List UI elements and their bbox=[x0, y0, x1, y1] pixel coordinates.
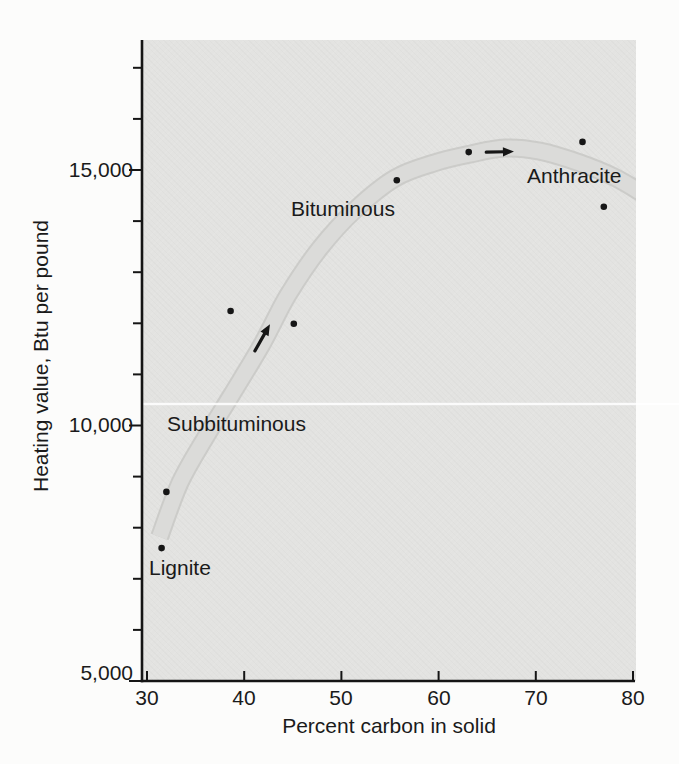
data-point bbox=[227, 308, 234, 315]
annotation-lignite: Lignite bbox=[149, 556, 211, 580]
data-point bbox=[579, 139, 586, 146]
data-point bbox=[163, 489, 170, 496]
data-point bbox=[158, 545, 165, 552]
x-axis-title: Percent carbon in solid bbox=[142, 714, 636, 738]
data-point bbox=[394, 177, 401, 184]
trend-band bbox=[160, 148, 642, 537]
annotation-subbituminous: Subbituminous bbox=[167, 412, 306, 436]
x-tick-label-80: 80 bbox=[598, 686, 668, 710]
x-tick-label-60: 60 bbox=[404, 686, 474, 710]
chart-canvas bbox=[0, 0, 679, 764]
data-point bbox=[601, 204, 608, 211]
annotation-anthracite: Anthracite bbox=[527, 164, 622, 188]
axes-group bbox=[141, 40, 635, 682]
y-axis-title: Heating value, Btu per pound bbox=[29, 220, 53, 492]
x-tick-label-70: 70 bbox=[501, 686, 571, 710]
x-tick-label-50: 50 bbox=[306, 686, 376, 710]
annotation-bituminous: Bituminous bbox=[291, 197, 395, 221]
x-tick-label-40: 40 bbox=[209, 686, 279, 710]
y-tick-label-15000: 15,000 bbox=[38, 158, 133, 182]
coal-heating-value-figure: 15,000 10,000 5,000 30 40 50 60 70 80 Pe… bbox=[0, 0, 679, 764]
data-point bbox=[291, 321, 298, 328]
trend-band-edge bbox=[160, 148, 642, 537]
data-point bbox=[465, 149, 472, 156]
x-tick-label-30: 30 bbox=[112, 686, 182, 710]
trend-band-group bbox=[160, 148, 642, 537]
y-tick-label-5000: 5,000 bbox=[38, 661, 133, 685]
scan-artifact-line bbox=[142, 403, 679, 405]
